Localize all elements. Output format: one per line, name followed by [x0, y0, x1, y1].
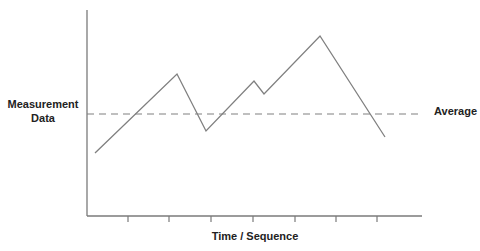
measurement-series-line — [95, 36, 385, 153]
y-axis-label-line1: Measurement — [0, 97, 86, 111]
line-chart — [0, 0, 480, 251]
average-label: Average — [434, 105, 477, 117]
y-axis-label: Measurement Data — [0, 97, 86, 125]
x-axis-label: Time / Sequence — [180, 230, 330, 242]
y-axis-label-line2: Data — [0, 111, 86, 125]
x-axis-ticks — [128, 216, 377, 222]
